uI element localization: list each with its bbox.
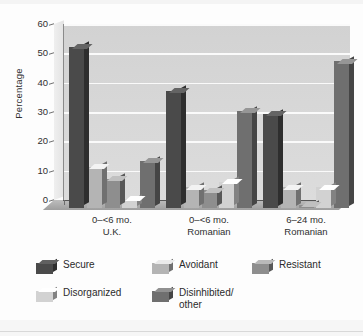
y-tick-40: 40 <box>22 78 48 88</box>
bar-side <box>155 156 160 206</box>
x-group-tick-0 <box>64 200 65 205</box>
bar-face <box>166 91 181 208</box>
bar-group-1-series-2 <box>87 167 102 208</box>
y-tick-50: 50 <box>22 48 48 58</box>
x-category-group-1: 0–<6 mo. U.K. <box>62 214 162 238</box>
bar-side <box>252 106 257 205</box>
swatch-face <box>36 291 53 302</box>
bar-face <box>316 187 331 208</box>
y-axis-line <box>63 24 64 200</box>
swatch-face <box>152 263 169 274</box>
y-tick-30: 30 <box>22 107 48 117</box>
bar-group-3-series-1 <box>263 114 278 208</box>
swatch-face <box>252 263 269 274</box>
x-category-group-3: 6–24 mo. Romanian <box>256 214 356 238</box>
legend-swatch-icon <box>152 260 169 272</box>
bar-group-3-series-3 <box>299 205 314 208</box>
bar-face <box>281 187 296 208</box>
bar-face <box>69 47 84 208</box>
legend-label: Disorganized <box>63 287 121 299</box>
legend-label: Avoidant <box>179 259 218 271</box>
bar-face <box>140 161 155 208</box>
bar-chart: Percentage 60 50 40 30 20 10 0 0–<6 mo. … <box>0 0 363 252</box>
x-category-group-2-line-1: 0–<6 mo. <box>189 214 229 225</box>
x-category-group-2: 0–<6 mo. Romanian <box>159 214 259 238</box>
bar-face <box>184 187 199 208</box>
bar-group-3-series-2 <box>281 187 296 208</box>
page-rule <box>0 331 363 332</box>
x-category-group-1-line-1: 0–<6 mo. <box>92 214 132 225</box>
x-category-group-3-line-1: 6–24 mo. <box>286 214 326 225</box>
legend-label: Resistant <box>279 259 321 271</box>
swatch-face <box>36 263 53 274</box>
bar-side <box>181 86 186 206</box>
bar-group-1-series-1 <box>69 47 84 208</box>
bar-group-2-series-2 <box>184 187 199 208</box>
legend-swatch-icon <box>36 260 53 272</box>
plot-area <box>54 24 350 208</box>
x-category-group-1-line-2: U.K. <box>103 226 121 237</box>
gridline-50 <box>63 53 350 55</box>
bar-side <box>349 56 354 205</box>
figure-root: Percentage 60 50 40 30 20 10 0 0–<6 mo. … <box>0 0 363 336</box>
y-tick-60: 60 <box>22 19 48 29</box>
legend-label: Disinhibited/ other <box>179 287 233 310</box>
bar-face <box>237 111 252 208</box>
bar-group-1-series-5 <box>140 161 155 208</box>
swatch-face <box>152 291 169 302</box>
legend-swatch-icon <box>252 260 269 272</box>
y-tick-20: 20 <box>22 136 48 146</box>
bar-face <box>263 114 278 208</box>
gridline-30 <box>63 112 350 114</box>
bar-group-3-series-4 <box>316 187 331 208</box>
y-axis-tick-labels: 60 50 40 30 20 10 0 <box>20 0 48 252</box>
x-category-group-2-line-2: Romanian <box>187 226 230 237</box>
bar-side <box>278 109 283 206</box>
bar-group-2-series-1 <box>166 91 181 208</box>
legend-label: Secure <box>63 259 95 271</box>
bar-face <box>87 167 102 208</box>
bar-side <box>84 42 89 206</box>
page-band-bottom <box>0 320 363 336</box>
x-category-group-3-line-2: Romanian <box>284 226 327 237</box>
legend-swatch-icon <box>152 288 169 300</box>
y-tick-0: 0 <box>22 195 48 205</box>
bar-group-2-series-5 <box>237 111 252 208</box>
legend-swatch-icon <box>36 288 53 300</box>
gridline-20 <box>63 141 350 143</box>
gridline-60 <box>63 24 350 26</box>
gridline-40 <box>63 83 350 85</box>
chart-legend: SecureAvoidantResistantDisorganizedDisin… <box>36 258 356 316</box>
y-tick-10: 10 <box>22 166 48 176</box>
